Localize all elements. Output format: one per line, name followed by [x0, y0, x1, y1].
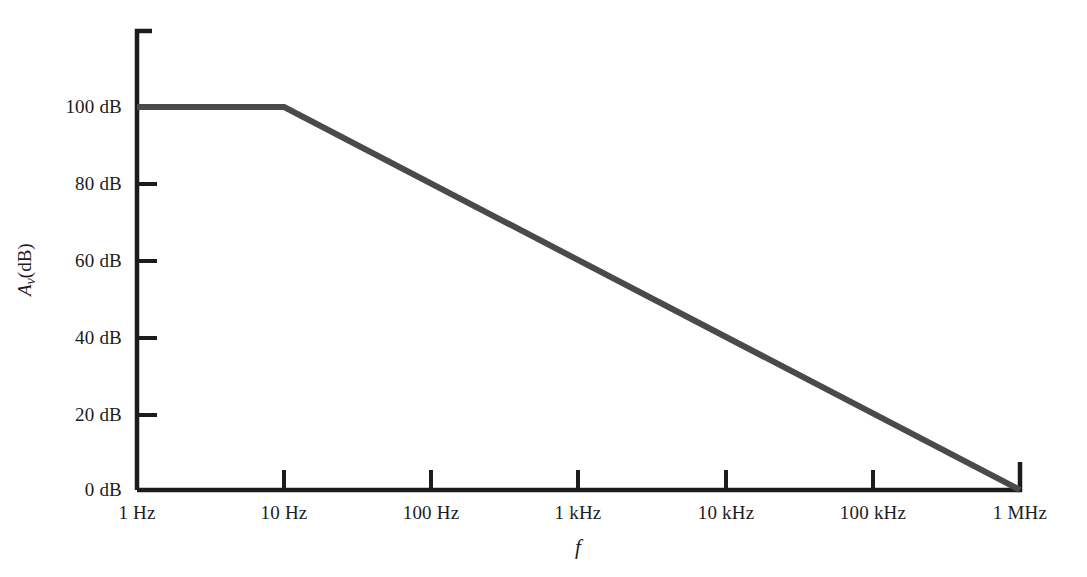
- y-axis-ticks: [137, 107, 157, 415]
- x-tick-label-100khz: 100 kHz: [840, 502, 906, 524]
- y-tick-label-40: 40 dB: [18, 327, 122, 349]
- y-tick-label-80: 80 dB: [18, 173, 122, 195]
- y-axis-title-subscript: v: [23, 278, 38, 284]
- y-tick-label-0: 0 dB: [18, 479, 122, 501]
- plot-canvas: [0, 0, 1087, 577]
- x-tick-label-1khz: 1 kHz: [555, 502, 602, 524]
- bode-plot-figure: 100 dB 80 dB 60 dB 40 dB 20 dB 0 dB 1 Hz…: [0, 0, 1087, 577]
- gain-response-curve: [137, 107, 1020, 490]
- y-axis-title-variable: A: [14, 284, 35, 296]
- y-axis-title: Av(dB): [14, 243, 39, 296]
- x-tick-label-10khz: 10 kHz: [698, 502, 755, 524]
- x-tick-label-100hz: 100 Hz: [403, 502, 460, 524]
- y-axis-title-unit: (dB): [14, 243, 35, 278]
- x-tick-label-1mhz: 1 MHz: [993, 502, 1047, 524]
- x-tick-label-1hz: 1 Hz: [118, 502, 155, 524]
- y-tick-label-100: 100 dB: [18, 96, 122, 118]
- x-tick-label-10hz: 10 Hz: [261, 502, 308, 524]
- x-axis-ticks: [284, 470, 873, 490]
- x-axis-title: f: [575, 535, 581, 560]
- y-tick-label-20: 20 dB: [18, 404, 122, 426]
